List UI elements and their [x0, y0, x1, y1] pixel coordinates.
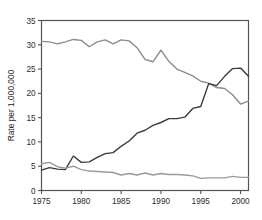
series-line-rising-series	[42, 68, 249, 170]
y-axis-label: Rate per 1,000,000	[6, 69, 16, 141]
x-axis-tick-label: 1995	[192, 197, 211, 206]
y-axis-tick-label: 0	[31, 187, 36, 196]
y-axis-tick-label: 20	[26, 89, 36, 98]
chart-container: 05101520253035197519801985199019952000Ra…	[0, 0, 262, 220]
y-axis-tick-label: 30	[26, 41, 36, 50]
y-axis-tick-label: 5	[31, 162, 36, 171]
x-axis-tick-label: 1990	[152, 197, 171, 206]
line-chart: 05101520253035197519801985199019952000Ra…	[0, 0, 262, 220]
plot-frame	[42, 21, 249, 191]
y-axis-tick-label: 15	[26, 114, 36, 123]
x-axis-tick-label: 1980	[72, 197, 91, 206]
series-line-low-flat-series	[42, 162, 249, 178]
y-axis-tick-label: 10	[26, 138, 36, 147]
y-axis-tick-label: 25	[26, 65, 36, 74]
series-line-declining-upper-series	[42, 39, 249, 104]
x-axis-tick-label: 1985	[112, 197, 131, 206]
x-axis-tick-label: 2000	[231, 197, 250, 206]
y-axis-tick-label: 35	[26, 17, 36, 26]
x-axis-tick-label: 1975	[32, 197, 51, 206]
